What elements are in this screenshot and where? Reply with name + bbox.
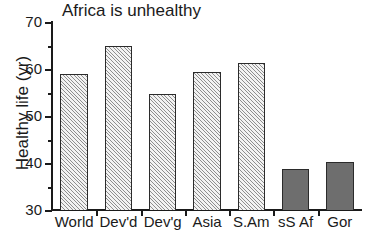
y-tick-label: 40 xyxy=(25,154,42,171)
x-label-sam: S.Am xyxy=(229,213,273,230)
bar-series xyxy=(52,22,362,210)
bar-sam[interactable] xyxy=(238,63,265,210)
bar-slot-devd xyxy=(96,22,140,210)
y-tick-label: 70 xyxy=(25,13,42,30)
y-tick-major xyxy=(45,163,52,165)
bar-slot-devg xyxy=(141,22,185,210)
y-tick-label: 30 xyxy=(25,201,42,218)
y-tick-major xyxy=(45,210,52,212)
plot-area: 70 60 50 40 30 xyxy=(52,22,362,210)
x-axis-labels: World Dev'd Dev'g Asia S.Am sS Af Gor xyxy=(52,213,362,230)
bar-slot-world xyxy=(52,22,96,210)
x-label-devg: Dev'g xyxy=(141,213,185,230)
y-tick-label: 60 xyxy=(25,60,42,77)
bar-gor[interactable] xyxy=(326,162,353,210)
bar-devd[interactable] xyxy=(105,46,132,211)
bar-world[interactable] xyxy=(60,74,87,210)
bar-chart: Africa is unhealthy Healthy life (yr) 70… xyxy=(0,0,367,242)
chart-title: Africa is unhealthy xyxy=(62,1,201,21)
y-tick-major xyxy=(45,69,52,71)
y-tick-major xyxy=(45,22,52,24)
bar-slot-sam xyxy=(229,22,273,210)
bar-slot-asia xyxy=(185,22,229,210)
bar-slot-ssaf xyxy=(273,22,317,210)
y-tick-major xyxy=(45,116,52,118)
x-label-ssaf: sS Af xyxy=(273,213,317,230)
bar-slot-gor xyxy=(318,22,362,210)
x-label-gor: Gor xyxy=(318,213,362,230)
x-label-devd: Dev'd xyxy=(96,213,140,230)
y-tick-label: 50 xyxy=(25,107,42,124)
bar-asia[interactable] xyxy=(193,72,220,210)
bar-devg[interactable] xyxy=(149,94,176,210)
x-label-asia: Asia xyxy=(185,213,229,230)
x-label-world: World xyxy=(52,213,96,230)
bar-ssaf[interactable] xyxy=(282,169,309,210)
